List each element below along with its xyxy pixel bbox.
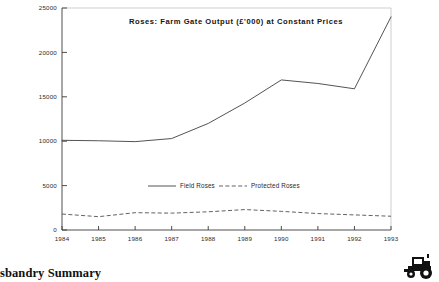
x-tick-label-1987: 1987 bbox=[164, 235, 179, 242]
footer-caption: sbandry Summary bbox=[0, 266, 101, 281]
y-tick-label-15000: 15000 bbox=[39, 93, 58, 100]
x-tick-label-1989: 1989 bbox=[237, 235, 252, 242]
x-tick-label-1990: 1990 bbox=[274, 235, 289, 242]
x-tick-label-1993: 1993 bbox=[384, 235, 399, 242]
y-tick-label-25000: 25000 bbox=[39, 4, 58, 11]
legend-label-field-roses: Field Roses bbox=[180, 182, 215, 189]
y-tick-label-5000: 5000 bbox=[42, 182, 57, 189]
y-tick-label-10000: 10000 bbox=[39, 137, 58, 144]
x-tick-label-1992: 1992 bbox=[347, 235, 362, 242]
x-tick-label-1984: 1984 bbox=[55, 235, 70, 242]
series-line-field-roses bbox=[62, 17, 391, 142]
x-tick-label-1991: 1991 bbox=[311, 235, 326, 242]
x-tick-marks bbox=[62, 226, 391, 230]
chart-figure: 0 5000 10000 15000 20000 25000 1984 1985… bbox=[0, 0, 439, 258]
legend-label-protected-roses: Protected Roses bbox=[251, 182, 300, 189]
tractor-logo bbox=[400, 252, 436, 280]
chart-legend: Field Roses Protected Roses bbox=[148, 182, 300, 189]
y-tick-label-0: 0 bbox=[53, 226, 57, 233]
x-tick-label-1985: 1985 bbox=[91, 235, 106, 242]
footer-band: sbandry Summary bbox=[0, 256, 439, 282]
chart-title: Roses: Farm Gate Output (£'000) at Const… bbox=[129, 17, 343, 26]
y-tick-label-20000: 20000 bbox=[39, 49, 58, 56]
x-tick-label-1988: 1988 bbox=[201, 235, 216, 242]
x-tick-label-1986: 1986 bbox=[128, 235, 143, 242]
y-tick-marks bbox=[62, 8, 67, 230]
series-line-protected-roses bbox=[62, 210, 391, 217]
line-chart: 0 5000 10000 15000 20000 25000 1984 1985… bbox=[0, 0, 439, 258]
